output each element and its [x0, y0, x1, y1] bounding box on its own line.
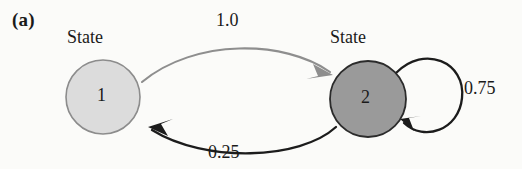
transition-2-to-1-arc	[152, 127, 336, 153]
state-transition-diagram	[0, 0, 522, 169]
transition-weight-1-to-2: 1.0	[216, 10, 239, 31]
state-1-number: 1	[97, 85, 106, 106]
transition-weight-2-to-2: 0.75	[464, 78, 496, 99]
figure-panel: (a) State State 1 2 1.0 0.25 0.75	[0, 0, 522, 169]
transition-1-to-2-arc	[142, 48, 330, 82]
state-2-number: 2	[361, 87, 370, 108]
transition-weight-2-to-1: 0.25	[208, 142, 240, 163]
panel-label: (a)	[12, 9, 35, 31]
state-1-caption: State	[67, 27, 103, 48]
arrowhead-icon	[148, 119, 173, 136]
state-2-caption: State	[330, 27, 366, 48]
